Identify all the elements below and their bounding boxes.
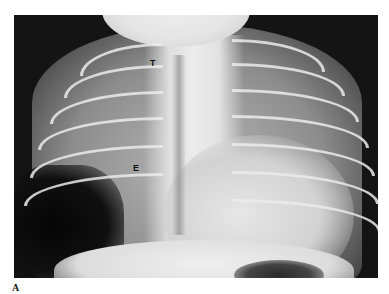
annotation-t-trachea: T (150, 58, 156, 68)
trachea-shadow (172, 55, 186, 235)
panel-label: A (12, 282, 19, 293)
xray-image (14, 15, 378, 278)
annotation-e-esophagus: E (133, 163, 139, 173)
